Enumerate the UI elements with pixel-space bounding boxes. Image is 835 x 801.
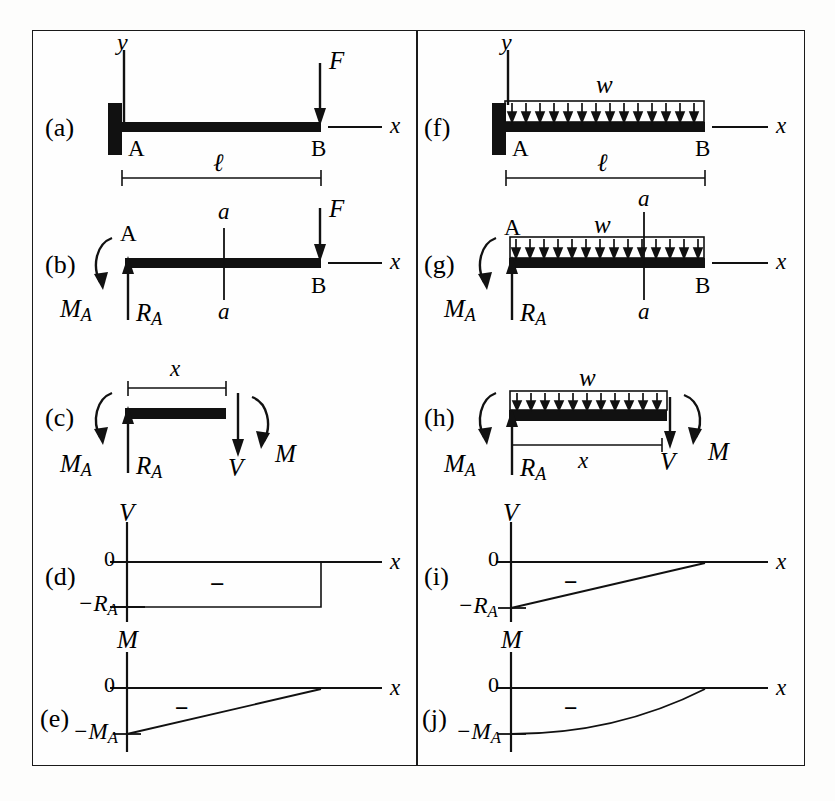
panel-i-min-subscript: A <box>488 602 498 621</box>
panel-h-force-reaction-subscript: A <box>535 464 546 484</box>
panel-g-section-bottom-label: a <box>638 300 650 323</box>
panel-a: (a) y x F A B ℓ <box>0 0 416 190</box>
panel-h-force-reaction-symbol: R <box>520 454 535 481</box>
panel-f: (f) <box>416 0 835 190</box>
panel-g-load-label: w <box>594 212 611 237</box>
panel-g: (g) <box>416 190 835 355</box>
panel-a-point-a-label: A <box>128 137 145 160</box>
panel-f-length-label: ℓ <box>597 150 607 175</box>
panel-h-moment-reaction-symbol: M <box>444 450 465 477</box>
panel-e-chart <box>0 630 416 760</box>
panel-e-zero-tick-label: 0 <box>104 674 115 696</box>
panel-j-zero-tick-label: 0 <box>488 674 499 696</box>
panel-f-graphic <box>416 0 835 190</box>
panel-i-v-axis-label: V <box>503 500 518 525</box>
panel-g-point-a-label: A <box>504 216 521 239</box>
panel-g-force-reaction-label: RA <box>520 300 546 328</box>
panel-e-region-sign: − <box>175 696 189 720</box>
panel-g-force-reaction-symbol: R <box>520 299 535 326</box>
panel-g-section-top-label: a <box>638 187 650 210</box>
panel-g-moment-reaction-symbol: M <box>444 295 465 322</box>
panel-a-graphic <box>0 0 416 190</box>
panel-i-region-sign: − <box>564 570 578 594</box>
panel-c-moment-reaction-symbol: M <box>60 450 81 477</box>
panel-d-zero-tick-label: 0 <box>104 548 115 570</box>
panel-i-x-axis-label: x <box>776 550 786 573</box>
panel-h-dimension-label: x <box>578 449 588 472</box>
panel-e: (e) M x 0 −MA − <box>0 630 416 760</box>
panel-c: (c) x MA RA V M <box>0 355 416 500</box>
panel-b-point-a-label: A <box>120 222 137 245</box>
panel-c-force-reaction-label: RA <box>136 453 162 481</box>
panel-c-force-reaction-symbol: R <box>136 452 151 479</box>
panel-g-point-b-label: B <box>695 274 710 297</box>
panel-a-point-b-label: B <box>311 137 326 160</box>
panel-j-x-axis-label: x <box>776 676 786 699</box>
panel-j: (j) M x 0 −MA − <box>416 630 835 760</box>
panel-h-graphic <box>416 355 835 500</box>
panel-a-y-axis-label: y <box>117 30 128 54</box>
panel-i-zero-tick-label: 0 <box>488 548 499 570</box>
panel-b-force-reaction-subscript: A <box>151 309 162 329</box>
panel-h-force-reaction-label: RA <box>520 455 546 483</box>
panel-b-force-label: F <box>329 196 344 221</box>
panel-g-graphic <box>416 190 835 355</box>
panel-a-force-label: F <box>329 48 344 73</box>
panel-b-moment-reaction-label: MA <box>60 296 92 324</box>
panel-i: (i) V x 0 −RA − <box>416 500 835 630</box>
panel-h-moment-reaction-subscript: A <box>465 460 476 480</box>
panel-b-graphic <box>0 190 416 355</box>
panel-h-moment-reaction-label: MA <box>444 451 476 479</box>
panel-i-min-symbol: −R <box>458 593 488 618</box>
panel-f-x-axis-label: x <box>776 114 786 137</box>
panel-j-m-axis-label: M <box>501 627 522 652</box>
panel-e-x-axis-label: x <box>390 676 400 699</box>
panel-d-v-axis-label: V <box>119 500 134 525</box>
panel-e-min-subscript: A <box>108 728 118 747</box>
panel-g-x-axis-label: x <box>776 250 786 273</box>
panel-g-moment-reaction-label: MA <box>444 296 476 324</box>
panel-c-moment-reaction-subscript: A <box>81 460 92 480</box>
panel-f-point-b-label: B <box>695 137 710 160</box>
panel-d-region-sign: − <box>210 572 225 598</box>
panel-b-point-b-label: B <box>311 274 326 297</box>
panel-d: (d) V x 0 −RA − <box>0 500 416 630</box>
panel-a-length-label: ℓ <box>213 150 223 175</box>
panel-e-min-tick-label: −MA <box>73 720 118 746</box>
panel-h-load-label: w <box>579 365 596 390</box>
panel-g-moment-reaction-subscript: A <box>465 305 476 325</box>
panel-b-section-bottom-label: a <box>218 300 230 323</box>
panel-b-force-reaction-label: RA <box>136 300 162 328</box>
panel-j-min-symbol: −M <box>456 719 491 744</box>
panel-h-shear-label: V <box>660 449 675 474</box>
panel-h-moment-label: M <box>708 439 729 464</box>
panel-a-x-axis-label: x <box>390 114 400 137</box>
panel-e-min-symbol: −M <box>73 719 108 744</box>
panel-c-dimension-label: x <box>170 357 180 380</box>
panel-i-min-tick-label: −RA <box>458 594 498 620</box>
panel-d-x-axis-label: x <box>390 550 400 573</box>
figure-page: (a) y x F A B ℓ (b) <box>0 0 835 801</box>
panel-c-moment-label: M <box>275 441 296 466</box>
panel-b-moment-reaction-subscript: A <box>81 305 92 325</box>
panel-c-shear-label: V <box>228 455 243 480</box>
panel-c-moment-reaction-label: MA <box>60 451 92 479</box>
panel-j-region-sign: − <box>564 696 578 720</box>
panel-b-force-reaction-symbol: R <box>136 299 151 326</box>
panel-h: (h) <box>416 355 835 500</box>
panel-f-load-label: w <box>596 72 613 97</box>
panel-d-min-subscript: A <box>108 600 118 619</box>
panel-g-force-reaction-subscript: A <box>535 309 546 329</box>
panel-d-chart <box>0 500 416 630</box>
panel-j-min-subscript: A <box>491 728 501 747</box>
panel-e-m-axis-label: M <box>117 627 138 652</box>
panel-b-x-axis-label: x <box>390 250 400 273</box>
panel-f-y-axis-label: y <box>501 30 512 54</box>
panel-d-min-symbol: −R <box>78 591 108 616</box>
panel-j-min-tick-label: −MA <box>456 720 501 746</box>
panel-b: (b) A B x F MA RA a a <box>0 190 416 355</box>
panel-b-moment-reaction-symbol: M <box>60 295 81 322</box>
panel-c-force-reaction-subscript: A <box>151 462 162 482</box>
panel-b-section-top-label: a <box>218 200 230 223</box>
panel-d-min-tick-label: −RA <box>78 592 118 618</box>
